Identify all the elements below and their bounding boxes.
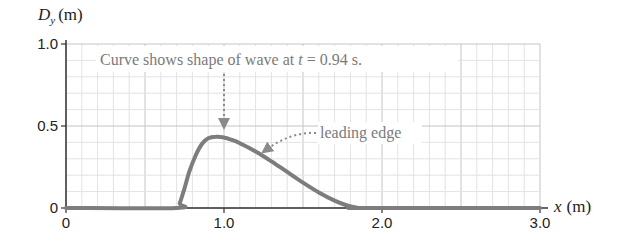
annotation-wave-time: Curve shows shape of wave at t = 0.94 s.: [100, 51, 362, 69]
y-tick-label: 1.0: [37, 35, 58, 52]
wave-chart: 01.02.03.000.51.0 Dy(m) x(m) Curve shows…: [0, 0, 620, 248]
y-axis-label: Dy(m): [37, 5, 83, 26]
x-tick-label: 2.0: [372, 214, 393, 231]
x-axis-label: x(m): [553, 197, 591, 216]
y-tick-label: 0.5: [37, 117, 58, 134]
annotation-arrow-curved: [266, 133, 316, 150]
x-tick-label: 0: [62, 214, 70, 231]
y-tick-label: 0: [50, 199, 58, 216]
x-tick-label: 3.0: [530, 214, 551, 231]
annotation-leading-edge: leading edge: [320, 124, 401, 142]
x-tick-label: 1.0: [214, 214, 235, 231]
